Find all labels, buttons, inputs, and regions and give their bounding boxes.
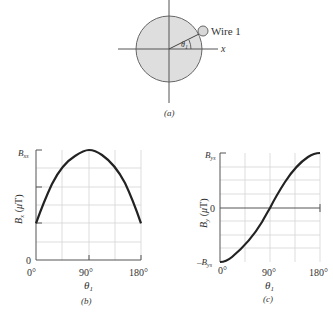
y-tick-bys: Bys bbox=[205, 150, 216, 161]
y-tick-neg-bys: –Bys bbox=[196, 257, 213, 268]
y-tick-0: 0 bbox=[26, 255, 31, 266]
x-axis-label: x bbox=[220, 43, 226, 54]
y-tick-0-c: 0 bbox=[210, 203, 215, 214]
x-tick-0-c: 0° bbox=[218, 265, 227, 276]
x-tick-90: 90° bbox=[79, 267, 93, 278]
caption-c: (c) bbox=[263, 294, 273, 304]
y-label-b: Bx (μT) bbox=[13, 194, 26, 224]
wire-1 bbox=[198, 26, 208, 36]
y-tick-bxs: Bxs bbox=[18, 148, 29, 159]
figure: Wire 1 θ1 x (a) Bxs 0 0° 90° 180° θ1 bbox=[0, 0, 333, 316]
grid-b bbox=[36, 150, 141, 260]
caption-b: (b) bbox=[81, 296, 92, 306]
x-tick-180: 180° bbox=[129, 267, 148, 278]
diagram-a: Wire 1 θ1 x (a) bbox=[118, 0, 241, 118]
chart-b: Bxs 0 0° 90° 180° θ1 Bx (μT) (b) bbox=[13, 148, 148, 306]
x-label-b: θ1 bbox=[84, 279, 93, 293]
wire-label: Wire 1 bbox=[211, 25, 241, 37]
caption-a: (a) bbox=[164, 108, 175, 118]
x-label-c: θ1 bbox=[265, 279, 274, 293]
chart-c: Bys 0 –Bys 0° 90° 180° θ1 By (μT) (c) bbox=[196, 150, 328, 304]
x-tick-180-c: 180° bbox=[309, 267, 328, 278]
x-tick-90-c: 90° bbox=[262, 267, 276, 278]
x-tick-0: 0° bbox=[27, 267, 36, 278]
